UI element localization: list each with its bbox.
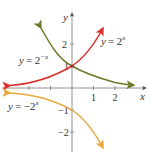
curve-2-x (10, 28, 103, 86)
label-neg-2-x: y= −2x (7, 99, 40, 112)
label-2-neg-x: y= 2−x (18, 53, 49, 66)
x-axis-label: x (139, 90, 145, 102)
y-axis-label: y (62, 11, 68, 23)
exponential-graph: 1 2 2 1 −1 −2 x y y= 2x y= 2−x y= −2x (0, 0, 152, 155)
x-tick-label-2: 2 (113, 92, 118, 103)
label-2-x: y= 2x (100, 34, 126, 47)
intersection-point (70, 64, 73, 67)
y-tick-label-2: 2 (62, 39, 67, 50)
x-tick-label-1: 1 (91, 92, 96, 103)
y-tick-label-m2: −2 (58, 127, 69, 138)
